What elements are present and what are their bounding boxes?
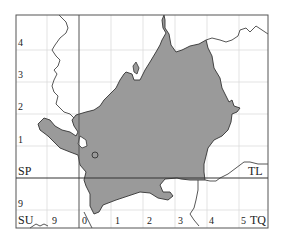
- left-label-9: 9: [18, 199, 23, 209]
- square-label-tq: TQ: [250, 214, 266, 226]
- left-label-3: 3: [18, 70, 23, 80]
- square-label-tl: TL: [248, 165, 263, 177]
- square-label-sp: SP: [18, 165, 31, 177]
- left-label-4: 4: [18, 38, 23, 48]
- left-label-1: 1: [18, 135, 23, 145]
- bottom-label-0: 0: [82, 216, 87, 226]
- square-label-su: SU: [18, 214, 33, 226]
- bottom-label-3: 3: [178, 216, 183, 226]
- bottom-label-4: 4: [209, 216, 214, 226]
- bottom-label-2: 2: [147, 216, 152, 226]
- bottom-label-5: 5: [241, 216, 246, 226]
- bottom-label-1: 1: [115, 216, 120, 226]
- distribution-map: [0, 0, 281, 239]
- region-fragment: [133, 62, 139, 74]
- bottom-label-9: 9: [52, 216, 57, 226]
- left-label-2: 2: [18, 102, 23, 112]
- distribution-region: [38, 15, 240, 214]
